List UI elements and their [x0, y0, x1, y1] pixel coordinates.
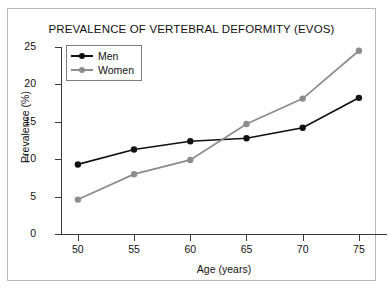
y-axis-line	[61, 47, 62, 235]
data-point-women	[243, 121, 249, 127]
data-point-women	[131, 171, 137, 177]
x-tick	[359, 235, 360, 241]
legend-line-women	[71, 69, 93, 71]
y-tick	[55, 84, 61, 85]
chart-legend: Men Women	[66, 45, 142, 81]
x-tick-label: 75	[339, 243, 379, 255]
y-tick	[55, 159, 61, 160]
data-point-men	[243, 135, 249, 141]
data-point-men	[299, 125, 305, 131]
y-tick-label: 25	[0, 40, 36, 52]
x-tick	[190, 235, 191, 241]
legend-marker-men	[79, 53, 85, 59]
x-tick-label: 50	[58, 243, 98, 255]
x-tick	[78, 235, 79, 241]
x-axis-line	[61, 234, 387, 235]
legend-line-men	[71, 55, 93, 57]
legend-label-women: Women	[98, 64, 134, 76]
data-point-women	[299, 95, 305, 101]
data-point-men	[131, 146, 137, 152]
x-axis-label: Age (years)	[61, 263, 387, 275]
y-tick	[55, 47, 61, 48]
x-tick-label: 60	[170, 243, 210, 255]
data-point-women	[356, 48, 362, 54]
x-tick-label: 65	[226, 243, 266, 255]
x-tick	[134, 235, 135, 241]
data-point-men	[75, 161, 81, 167]
y-axis-label: Prevalence (%)	[19, 62, 31, 192]
x-tick	[303, 235, 304, 241]
legend-marker-women	[79, 67, 85, 73]
y-tick	[55, 234, 61, 235]
x-tick-label: 55	[114, 243, 154, 255]
x-tick-label: 70	[283, 243, 323, 255]
y-tick-label: 0	[0, 227, 36, 239]
legend-item-men: Men	[71, 49, 118, 63]
series-line-men	[78, 98, 359, 165]
legend-item-women: Women	[71, 63, 134, 77]
data-point-men	[187, 138, 193, 144]
data-point-women	[187, 157, 193, 163]
y-tick	[55, 122, 61, 123]
data-point-men	[356, 95, 362, 101]
chart-title: PREVALENCE OF VERTEBRAL DEFORMITY (EVOS)	[8, 23, 375, 35]
chart-frame: PREVALENCE OF VERTEBRAL DEFORMITY (EVOS)…	[7, 8, 376, 281]
y-tick	[55, 197, 61, 198]
x-tick	[246, 235, 247, 241]
data-point-women	[75, 196, 81, 202]
legend-label-men: Men	[98, 50, 118, 62]
